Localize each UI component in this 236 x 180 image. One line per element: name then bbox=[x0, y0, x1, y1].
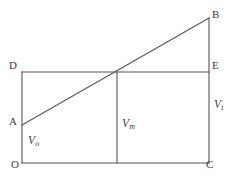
variable-symbol-v-initial: V bbox=[28, 134, 35, 146]
vertex-label-C: C bbox=[206, 159, 213, 170]
variable-label-v-mean: Vm bbox=[122, 118, 135, 131]
vertex-label-D: D bbox=[9, 60, 17, 71]
vertex-label-E: E bbox=[212, 60, 219, 71]
variable-label-v-initial: Vo bbox=[28, 135, 39, 148]
variable-symbol-v-mean: V bbox=[122, 117, 129, 129]
vertex-label-B: B bbox=[212, 9, 219, 20]
variable-subscript-v-initial: o bbox=[35, 139, 39, 148]
figure-canvas bbox=[0, 0, 236, 180]
variable-subscript-v-final: t bbox=[221, 103, 224, 112]
variable-symbol-v-final: V bbox=[214, 98, 221, 110]
variable-label-v-final: Vt bbox=[214, 99, 224, 112]
vertex-label-O: O bbox=[11, 159, 19, 170]
variable-subscript-v-mean: m bbox=[129, 122, 135, 131]
vertex-label-A: A bbox=[9, 116, 17, 127]
velocity-time-figure: O C D E A B Vo Vm Vt bbox=[0, 0, 236, 180]
